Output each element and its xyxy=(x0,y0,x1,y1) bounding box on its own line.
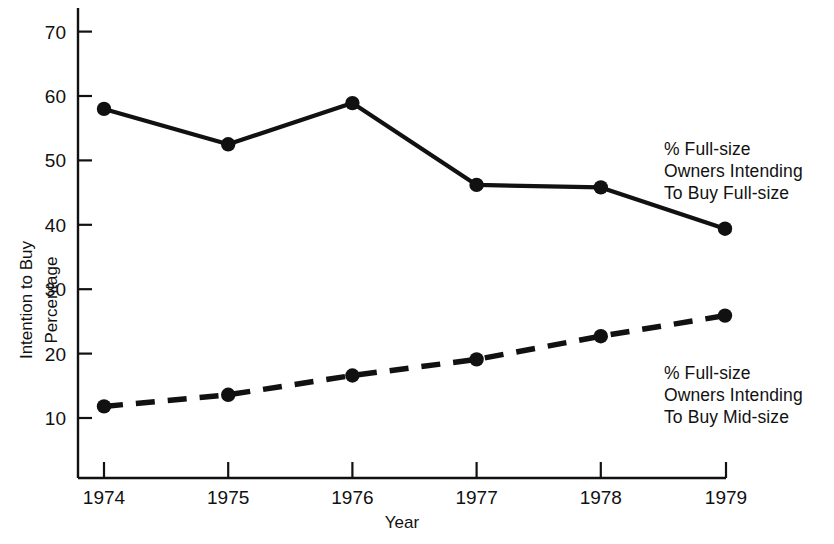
legend-upper-line-3: To Buy Full-size xyxy=(664,182,803,204)
y-tick-label: 50 xyxy=(45,150,66,171)
legend-lower-line-3: To Buy Mid-size xyxy=(664,406,803,428)
data-point-marker xyxy=(221,388,235,402)
y-tick-label: 60 xyxy=(45,86,66,107)
y-tick-label: 40 xyxy=(45,215,66,236)
series-line-1 xyxy=(104,316,725,407)
data-point-marker xyxy=(594,180,608,194)
data-point-marker xyxy=(469,178,483,192)
line-chart-canvas: 10203040506070 197419751976197719781979 … xyxy=(0,0,834,544)
legend-label-full-size-to-mid-size: % Full-size Owners Intending To Buy Mid-… xyxy=(664,362,803,428)
x-tick-label: 1977 xyxy=(455,487,497,508)
y-tick-label: 70 xyxy=(45,22,66,43)
data-point-marker xyxy=(469,352,483,366)
data-point-marker xyxy=(594,329,608,343)
x-tick-label: 1976 xyxy=(331,487,373,508)
x-axis-title: Year xyxy=(385,513,420,532)
data-point-marker xyxy=(345,368,359,382)
chart-figure: 10203040506070 197419751976197719781979 … xyxy=(0,0,834,544)
x-tick-label: 1975 xyxy=(207,487,249,508)
legend-upper-line-2: Owners Intending xyxy=(664,160,803,182)
x-tick-label: 1974 xyxy=(83,487,126,508)
y-axis-title-line1: Intention to Buy xyxy=(17,240,36,359)
data-point-marker xyxy=(718,308,732,322)
data-point-marker xyxy=(97,102,111,116)
x-axis-ticks: 197419751976197719781979 xyxy=(83,462,747,508)
x-tick-label: 1979 xyxy=(705,487,747,508)
y-tick-label: 10 xyxy=(45,408,66,429)
series-group xyxy=(97,96,732,414)
y-axis-title-line2: Percentage xyxy=(42,257,61,344)
data-point-marker xyxy=(345,96,359,110)
data-point-marker xyxy=(718,222,732,236)
x-tick-label: 1978 xyxy=(580,487,622,508)
legend-lower-line-2: Owners Intending xyxy=(664,384,803,406)
axis-group xyxy=(78,8,726,478)
data-point-marker xyxy=(97,399,111,413)
legend-upper-line-1: % Full-size xyxy=(664,138,803,160)
data-point-marker xyxy=(221,137,235,151)
series-line-0 xyxy=(104,103,725,229)
legend-lower-line-1: % Full-size xyxy=(664,362,803,384)
y-axis-ticks: 10203040506070 xyxy=(45,22,92,429)
y-tick-label: 20 xyxy=(45,344,66,365)
legend-label-full-size-to-full-size: % Full-size Owners Intending To Buy Full… xyxy=(664,138,803,204)
